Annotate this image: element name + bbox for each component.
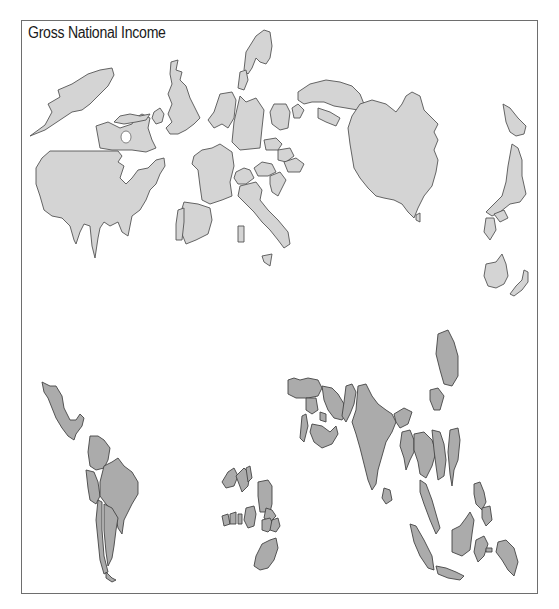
country-norway-sweden-finland bbox=[244, 30, 272, 74]
country-west-africa-3 bbox=[238, 514, 242, 524]
country-japan-dark-block bbox=[436, 330, 458, 386]
country-saudi-arabia bbox=[310, 424, 338, 448]
country-greece bbox=[270, 172, 286, 196]
country-australia bbox=[484, 254, 508, 288]
country-turkey bbox=[288, 378, 322, 398]
country-philippines-south bbox=[482, 506, 492, 526]
country-usa bbox=[36, 151, 165, 258]
country-gulf-states bbox=[320, 412, 326, 422]
country-austria bbox=[254, 162, 276, 176]
country-new-zealand bbox=[510, 270, 528, 296]
country-poland bbox=[270, 104, 290, 130]
cartogram-map bbox=[0, 0, 559, 609]
country-ukraine bbox=[318, 108, 340, 126]
country-sardinia bbox=[238, 226, 244, 242]
country-nepal-bangladesh bbox=[394, 408, 412, 428]
country-denmark bbox=[238, 70, 248, 90]
country-baltics bbox=[292, 104, 304, 118]
country-peru bbox=[86, 470, 100, 504]
country-hong-kong-taiwan-dark bbox=[430, 388, 444, 410]
country-czech bbox=[264, 138, 282, 150]
country-papua-new-guinea bbox=[496, 540, 518, 576]
country-malaysia-peninsula bbox=[420, 480, 440, 534]
country-java bbox=[436, 566, 464, 580]
country-japan-hokkaido bbox=[503, 104, 526, 136]
country-japan-honshu bbox=[486, 144, 526, 216]
hudson-bay bbox=[121, 131, 131, 143]
country-south-africa bbox=[254, 538, 278, 570]
country-taiwan bbox=[416, 213, 420, 222]
country-switzerland bbox=[234, 168, 254, 184]
country-west-africa-1 bbox=[222, 514, 230, 526]
country-philippines bbox=[474, 482, 486, 510]
country-ireland bbox=[152, 108, 164, 124]
country-portugal bbox=[176, 208, 184, 240]
country-nigeria bbox=[244, 506, 256, 528]
country-china bbox=[348, 92, 438, 218]
country-morocco bbox=[222, 468, 238, 488]
country-patagonia-tip bbox=[106, 572, 116, 582]
country-mexico bbox=[42, 382, 84, 440]
country-germany bbox=[232, 96, 264, 150]
country-small-islands bbox=[486, 548, 492, 552]
country-south-korea-dark bbox=[448, 428, 460, 486]
country-borneo bbox=[452, 512, 474, 556]
country-japan-kyushu bbox=[484, 218, 496, 240]
country-syria-iraq bbox=[306, 398, 318, 414]
country-west-africa-2 bbox=[230, 512, 236, 524]
country-israel bbox=[300, 414, 308, 442]
country-russia bbox=[298, 80, 364, 110]
country-sicily bbox=[262, 254, 272, 266]
country-sumatra bbox=[410, 524, 434, 570]
country-uk bbox=[166, 60, 200, 134]
country-france bbox=[192, 144, 234, 204]
country-italy bbox=[238, 182, 290, 248]
country-india bbox=[352, 384, 396, 490]
country-netherlands-belgium bbox=[208, 92, 236, 128]
country-sri-lanka bbox=[382, 488, 392, 504]
country-egypt bbox=[258, 480, 272, 512]
country-myanmar bbox=[400, 430, 414, 470]
